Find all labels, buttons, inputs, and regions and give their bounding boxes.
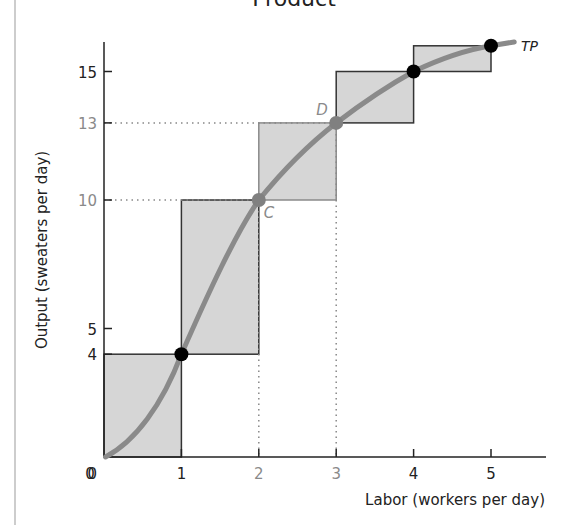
x-tick-label: 1 [177,465,187,483]
x-tick-label: 4 [409,465,419,483]
annotation-d: D [316,101,328,119]
x-axis-label: Labor (workers per day) [365,491,545,509]
annotation-c: C [264,204,275,222]
total-product-chart: 012345045101315Labor (workers per day)Ou… [0,0,588,525]
x-tick-label: 2 [254,465,264,483]
y-tick-label: 4 [87,346,97,364]
x-tick-label: 5 [486,465,496,483]
y-tick-label: 0 [87,465,97,483]
y-axis-label: Output (sweaters per day) [33,151,51,349]
annotation-tp: TP [521,38,539,54]
tp-point [407,65,421,79]
y-tick-label: 15 [78,64,97,82]
tp-point [329,116,343,130]
y-tick-label: 5 [87,321,97,339]
tp-point [174,347,188,361]
mp-box [104,354,181,457]
y-tick-label: 13 [78,115,97,133]
tp-point [484,39,498,53]
x-tick-label: 3 [331,465,341,483]
y-tick-label: 10 [78,192,97,210]
